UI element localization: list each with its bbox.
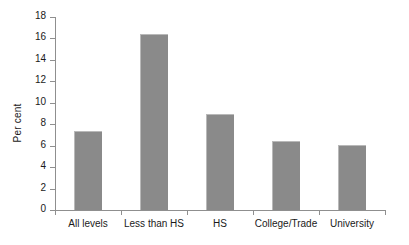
y-tick: 2 <box>50 189 55 190</box>
y-tick-label: 6 <box>40 139 46 150</box>
x-tick-label: University <box>330 218 374 229</box>
y-tick-label: 2 <box>40 182 46 193</box>
y-tick: 10 <box>50 103 55 104</box>
y-tick-label: 14 <box>35 53 46 64</box>
bar-chart: Per cent 024681012141618 All levelsLess … <box>0 0 409 245</box>
y-axis-line <box>55 17 56 210</box>
x-tick <box>55 210 56 215</box>
x-tick-label: All levels <box>68 218 107 229</box>
y-tick: 16 <box>50 38 55 39</box>
y-tick-label: 12 <box>35 74 46 85</box>
x-axis-line <box>50 210 386 211</box>
x-tick <box>121 210 122 215</box>
x-tick-label: HS <box>213 218 227 229</box>
x-tick <box>319 210 320 215</box>
y-tick-label: 0 <box>40 203 46 214</box>
plot-area: 024681012141618 <box>55 17 385 210</box>
y-tick-label: 18 <box>35 10 46 21</box>
bar <box>206 114 234 211</box>
y-tick: 14 <box>50 60 55 61</box>
x-tick <box>187 210 188 215</box>
bar <box>140 34 168 210</box>
y-tick: 8 <box>50 124 55 125</box>
y-tick-label: 8 <box>40 117 46 128</box>
y-tick: 18 <box>50 17 55 18</box>
bar <box>74 131 102 210</box>
bar <box>272 141 300 210</box>
y-tick-label: 10 <box>35 96 46 107</box>
x-tick-label: Less than HS <box>124 218 184 229</box>
y-tick-label: 16 <box>35 31 46 42</box>
y-tick: 12 <box>50 81 55 82</box>
x-tick <box>385 210 386 215</box>
y-tick: 6 <box>50 146 55 147</box>
bar <box>338 145 366 210</box>
x-tick-label: College/Trade <box>255 218 317 229</box>
y-tick: 4 <box>50 167 55 168</box>
x-tick <box>253 210 254 215</box>
y-tick-label: 4 <box>40 160 46 171</box>
y-axis-title: Per cent <box>12 88 24 158</box>
